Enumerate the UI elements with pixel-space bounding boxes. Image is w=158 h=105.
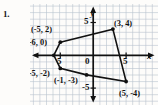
vertex-dot-neg5-2 — [58, 40, 62, 44]
vertex-dot-neg1-neg3 — [85, 73, 89, 77]
problem-number: 1. — [3, 9, 9, 19]
coordinate-plot: y x 5 -5 5 5 0 (-5, 2) (-6, 0) (-5, -2) … — [30, 4, 158, 105]
vertex-label-neg6-0: (-6, 0) — [30, 39, 47, 47]
vertex-label-neg5-2: (-5, 2) — [31, 26, 52, 34]
tick-label-y-negative: -5 — [82, 83, 90, 92]
tick-label-origin: 0 — [85, 57, 90, 66]
vertex-dot-neg5-neg2 — [58, 67, 62, 71]
figure-container: 1. — [0, 0, 158, 105]
tick-label-x-positive: 5 — [123, 57, 128, 66]
x-axis-label: x — [147, 52, 152, 61]
vertex-dot-5-neg4 — [124, 80, 128, 84]
vertex-label-neg1-neg3: (-1, -3) — [54, 77, 78, 85]
vertex-label-3-4: (3, 4) — [114, 20, 132, 28]
tick-label-y-positive: 5 — [84, 17, 89, 26]
y-axis-label: y — [91, 9, 95, 18]
tick-label-x-negative: 5 — [57, 57, 62, 66]
vertex-label-neg5-neg2: (-5, -2) — [30, 70, 50, 78]
vertex-dot-neg6-0 — [52, 53, 56, 57]
vertex-label-5-neg4: (5, -4) — [119, 90, 140, 98]
